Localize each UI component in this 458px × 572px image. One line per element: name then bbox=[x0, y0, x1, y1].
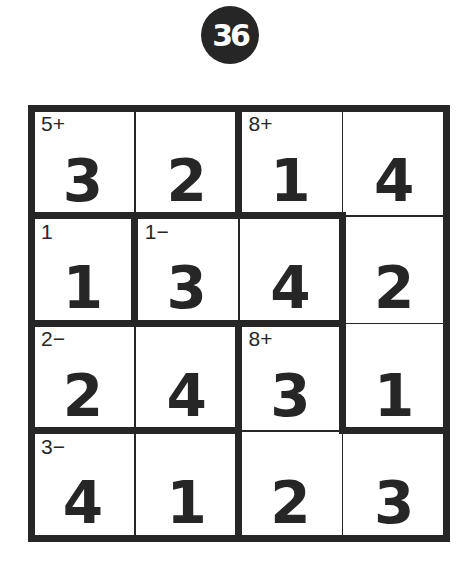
cell-value: 3 bbox=[31, 152, 135, 210]
cell-value: 4 bbox=[342, 152, 446, 210]
grid-cell[interactable]: 3−4 bbox=[31, 431, 135, 539]
cage-border bbox=[339, 427, 450, 434]
grid-cell[interactable]: 1 bbox=[135, 431, 239, 539]
grid-cell[interactable]: 5+3 bbox=[31, 108, 135, 216]
cage-clue: 3− bbox=[41, 435, 65, 459]
cell-value: 2 bbox=[135, 152, 239, 210]
cage-border bbox=[443, 105, 450, 542]
grid-cell[interactable]: 4 bbox=[342, 108, 446, 216]
cell-value: 3 bbox=[135, 259, 239, 317]
cage-border bbox=[235, 427, 242, 542]
cell-value: 1 bbox=[342, 367, 446, 425]
cage-border bbox=[28, 427, 139, 434]
cage-clue: 2− bbox=[41, 327, 65, 351]
cage-border bbox=[339, 212, 346, 327]
cell-value: 1 bbox=[135, 474, 239, 532]
puzzle-number: 36 bbox=[212, 18, 248, 53]
grid-cell[interactable]: 2 bbox=[342, 216, 446, 324]
cell-value: 4 bbox=[135, 367, 239, 425]
cage-border bbox=[235, 105, 242, 220]
cage-border bbox=[131, 212, 242, 219]
cage-border bbox=[339, 320, 346, 435]
cage-border bbox=[28, 212, 139, 219]
cage-border bbox=[131, 212, 138, 327]
cell-value: 3 bbox=[239, 367, 343, 425]
grid-cell[interactable]: 4 bbox=[239, 216, 343, 324]
grid-cell[interactable]: 2 bbox=[135, 108, 239, 216]
cell-value: 2 bbox=[239, 474, 343, 532]
grid-cell[interactable]: 1 bbox=[342, 323, 446, 431]
grid-cell[interactable]: 3 bbox=[342, 431, 446, 539]
cell-value: 1 bbox=[31, 259, 135, 317]
cage-clue: 1 bbox=[41, 220, 53, 244]
cage-border bbox=[235, 320, 346, 327]
cage-clue: 8+ bbox=[249, 327, 273, 351]
cage-border bbox=[235, 320, 242, 435]
cell-value: 1 bbox=[239, 152, 343, 210]
grid-cell[interactable]: 8+1 bbox=[239, 108, 343, 216]
grid-cell[interactable]: 4 bbox=[135, 323, 239, 431]
cage-border bbox=[131, 320, 242, 327]
cell-value: 2 bbox=[342, 259, 446, 317]
puzzle-number-badge: 36 bbox=[201, 6, 259, 64]
cell-value: 3 bbox=[342, 474, 446, 532]
grid-cell[interactable]: 2−2 bbox=[31, 323, 135, 431]
cell-value: 2 bbox=[31, 367, 135, 425]
grid-cell[interactable]: 2 bbox=[239, 431, 343, 539]
cage-border bbox=[28, 320, 139, 327]
cage-border bbox=[235, 212, 346, 219]
grid-cell[interactable]: 11 bbox=[31, 216, 135, 324]
cage-border bbox=[131, 427, 242, 434]
cage-clue: 8+ bbox=[249, 112, 273, 136]
cell-value: 4 bbox=[239, 259, 343, 317]
cage-clue: 1− bbox=[145, 220, 169, 244]
kenken-grid: 5+328+14111−3422−248+313−4123 bbox=[31, 108, 446, 538]
cage-clue: 5+ bbox=[41, 112, 65, 136]
cell-value: 4 bbox=[31, 474, 135, 532]
grid-cell[interactable]: 8+3 bbox=[239, 323, 343, 431]
grid-cell[interactable]: 1−3 bbox=[135, 216, 239, 324]
